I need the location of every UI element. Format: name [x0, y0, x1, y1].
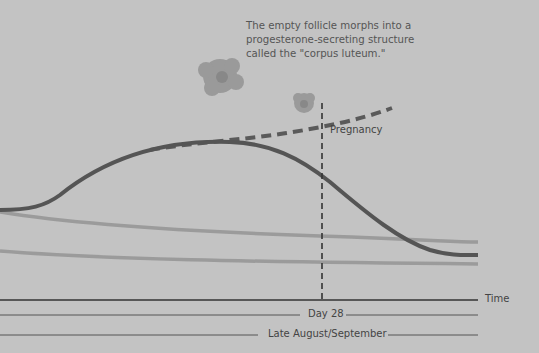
- hormone-curve: [0, 142, 478, 255]
- corpus-luteum-annotation: The empty follicle morphs into a progest…: [246, 19, 426, 61]
- baseline-line-2: [0, 251, 478, 264]
- corpus-luteum-large-icon: [198, 58, 244, 96]
- day28-label: Day 28: [308, 308, 344, 319]
- time-axis-label: Time: [485, 293, 509, 304]
- season-label: Late August/September: [268, 328, 387, 339]
- corpus-luteum-small-icon: [293, 93, 315, 113]
- pregnancy-label: Pregnancy: [330, 124, 382, 135]
